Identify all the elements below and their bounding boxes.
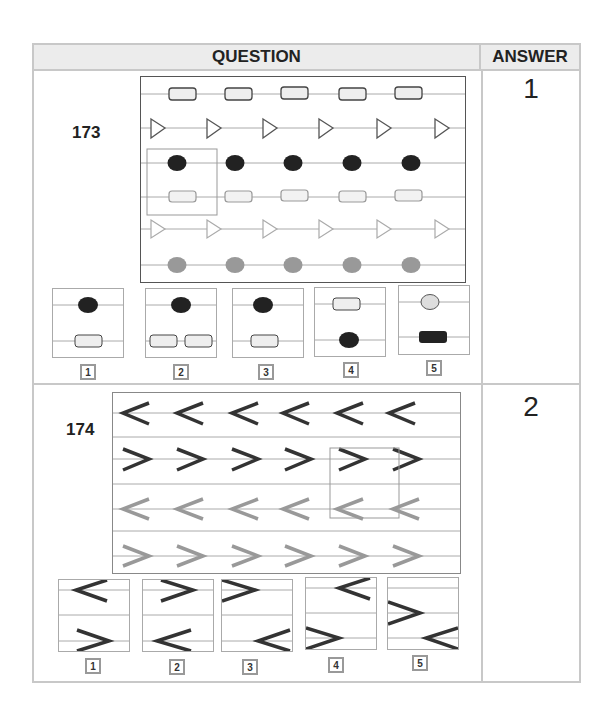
row-divider [34, 383, 579, 385]
q173-option-1[interactable] [52, 288, 124, 358]
q173-pattern-grid [140, 76, 466, 283]
q174-option-5[interactable] [387, 577, 459, 650]
q173-option-label-1[interactable]: 1 [80, 364, 96, 380]
q173-option-label-5[interactable]: 5 [426, 360, 442, 376]
q174-option-label-3[interactable]: 3 [242, 659, 258, 675]
q173-grid-shapes [141, 77, 465, 282]
q174-option-label-5[interactable]: 5 [412, 655, 428, 671]
q173-option-5[interactable] [398, 285, 470, 355]
q174-option-1[interactable] [58, 579, 130, 652]
answer-173: 1 [483, 73, 579, 105]
q173-option-3[interactable] [232, 288, 304, 358]
q173-option-label-2[interactable]: 2 [173, 364, 189, 380]
q173-option-label-4[interactable]: 4 [343, 362, 359, 378]
answer-174: 2 [483, 391, 579, 423]
question-number-173: 173 [72, 123, 100, 143]
question-column-header: QUESTION [34, 45, 481, 71]
q174-option-3[interactable] [221, 579, 293, 652]
q174-pattern-grid [112, 392, 461, 574]
q174-option-2[interactable] [142, 579, 214, 652]
q174-option-label-1[interactable]: 1 [85, 658, 101, 674]
q173-option-2[interactable] [145, 288, 217, 358]
column-divider [481, 71, 483, 681]
q173-option-label-3[interactable]: 3 [258, 364, 274, 380]
q173-option-4[interactable] [314, 287, 386, 357]
answer-sheet: QUESTION ANSWER 173 1 [32, 43, 581, 683]
q174-option-label-4[interactable]: 4 [328, 657, 344, 673]
q174-grid-shapes [113, 393, 460, 573]
q174-option-4[interactable] [305, 577, 377, 650]
question-number-174: 174 [66, 420, 94, 440]
answer-column-header: ANSWER [481, 45, 579, 71]
q174-option-label-2[interactable]: 2 [169, 659, 185, 675]
